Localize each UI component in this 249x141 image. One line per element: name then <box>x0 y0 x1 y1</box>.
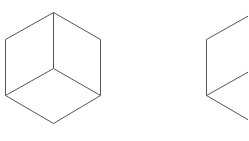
cube-edge <box>6 96 54 124</box>
cube-edge <box>54 96 101 124</box>
cube-edge <box>6 69 54 96</box>
diagram-canvas <box>0 0 248 141</box>
cube-right <box>207 13 249 124</box>
cube-edge <box>6 13 54 40</box>
cube-edge <box>54 13 101 40</box>
cube-edge <box>54 69 101 96</box>
cube-edge <box>207 96 249 124</box>
cube-left <box>6 13 101 124</box>
cube-edge <box>207 69 249 96</box>
cube-edge <box>207 13 249 40</box>
